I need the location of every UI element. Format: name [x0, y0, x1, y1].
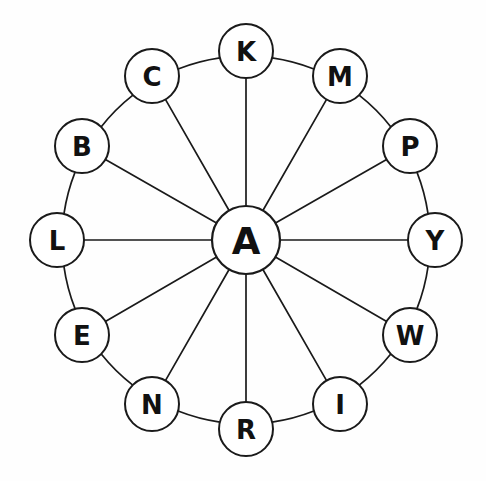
outer-node-k[interactable]: K: [219, 24, 273, 78]
node-label-i: I: [335, 390, 345, 420]
outer-node-i[interactable]: I: [313, 377, 367, 431]
outer-node-r[interactable]: R: [219, 402, 273, 456]
center-node-group: A: [212, 206, 280, 274]
rim-edge-r-n: [178, 411, 220, 422]
wheel-diagram-container: KMPYWIRNELBC A: [0, 0, 486, 481]
spoke-edge-a-c: [165, 99, 229, 210]
rim-edge-y-w: [417, 266, 428, 309]
outer-node-e[interactable]: E: [55, 308, 109, 362]
outer-node-w[interactable]: W: [383, 308, 437, 362]
spoke-edge-a-p: [276, 159, 387, 223]
spoke-edge-a-e: [105, 257, 216, 321]
outer-node-m[interactable]: M: [313, 49, 367, 103]
spoke-edge-a-i: [263, 270, 327, 381]
outer-node-b[interactable]: B: [55, 119, 109, 173]
node-label-e: E: [73, 321, 91, 351]
outer-node-c[interactable]: C: [125, 49, 179, 103]
rim-edge-l-b: [64, 172, 75, 214]
node-label-center-a: A: [232, 220, 261, 263]
outer-node-n[interactable]: N: [125, 377, 179, 431]
node-label-k: K: [236, 37, 257, 67]
node-label-b: B: [72, 132, 92, 162]
rim-edge-b-c: [101, 95, 133, 127]
rim-edge-w-i: [359, 354, 391, 385]
rim-edge-n-e: [101, 354, 133, 385]
node-label-n: N: [141, 390, 163, 420]
spoke-edge-a-n: [165, 270, 229, 381]
node-label-w: W: [396, 321, 425, 351]
wheel-diagram-svg: KMPYWIRNELBC A: [0, 0, 486, 481]
rim-edge-e-l: [64, 266, 75, 309]
rim-edge-p-y: [417, 172, 428, 214]
center-node-a[interactable]: A: [212, 206, 280, 274]
spoke-edge-a-b: [105, 159, 216, 223]
outer-node-l[interactable]: L: [30, 213, 84, 267]
node-label-l: L: [49, 226, 66, 256]
rim-edge-m-p: [359, 95, 391, 127]
node-label-m: M: [327, 62, 353, 92]
rim-edge-c-k: [178, 58, 220, 69]
outer-node-y[interactable]: Y: [408, 213, 462, 267]
node-label-r: R: [236, 415, 256, 445]
node-label-y: Y: [425, 226, 446, 256]
rim-edge-i-r: [272, 411, 314, 422]
spoke-edge-a-m: [263, 99, 327, 210]
spoke-edge-a-w: [275, 257, 386, 321]
node-label-c: C: [142, 62, 161, 92]
outer-node-p[interactable]: P: [383, 119, 437, 173]
node-label-p: P: [400, 132, 419, 162]
rim-edge-k-m: [272, 58, 314, 69]
